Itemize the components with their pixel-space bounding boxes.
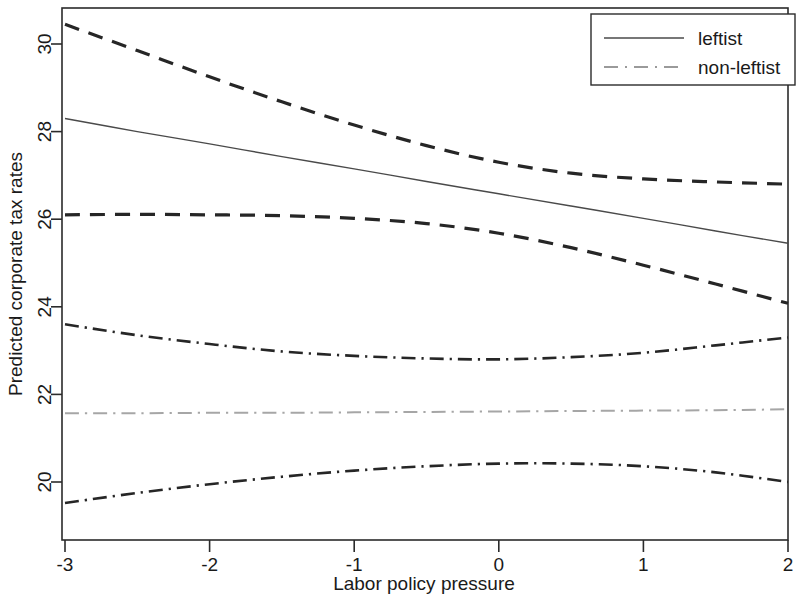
curve-non-leftist [65,409,788,413]
y-tick-label: 28 [34,121,55,142]
x-axis-tickmarks [65,540,788,552]
y-tick-label: 26 [34,209,55,230]
x-tick-label: 0 [494,554,505,575]
y-tick-label: 24 [34,296,55,318]
x-tick-label: -1 [346,554,363,575]
x-tick-label: 2 [783,554,794,575]
x-tick-label: -3 [57,554,74,575]
y-axis-title: Predicted corporate tax rates [5,152,26,396]
curve-non-leftist-lower-ci [65,463,788,503]
y-axis-tickmarks [51,44,62,482]
y-axis-tick-labels: 202224262830 [34,33,55,492]
y-tick-label: 22 [34,384,55,405]
y-tick-label: 20 [34,471,55,492]
chart-page: 202224262830 -3-2-1012 Labor policy pres… [0,0,802,597]
curve-leftist-lower-ci [65,214,788,303]
legend-label-leftist: leftist [698,28,743,49]
y-tick-label: 30 [34,33,55,54]
x-tick-label: 1 [638,554,649,575]
legend-label-non-leftist: non-leftist [698,57,781,78]
chart-curves [65,24,788,503]
predicted-tax-rate-chart: 202224262830 -3-2-1012 Labor policy pres… [0,0,802,597]
legend: leftist non-leftist [591,14,795,85]
x-axis-tick-labels: -3-2-1012 [57,554,794,575]
x-axis-title: Labor policy pressure [333,573,515,594]
curve-non-leftist-upper-ci [65,324,788,359]
plot-frame [62,8,788,540]
x-tick-label: -2 [201,554,218,575]
